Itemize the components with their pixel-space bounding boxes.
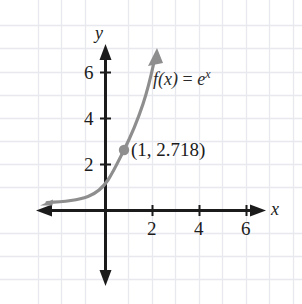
exponential-function-graph: y x 6 4 2 2 4 6 f(x) = ex (1, 2.718) [0,0,302,304]
y-axis-label: y [95,24,103,42]
x-axis [36,205,266,217]
x-tick-label-2: 2 [147,219,157,238]
equals-sign: = [178,69,197,89]
y-tick-label-4: 4 [84,109,94,128]
y-tick-label-6: 6 [84,63,94,82]
y-tick-label-2: 2 [84,155,94,174]
function-equation-label: f(x) = ex [153,68,210,88]
function-notation: f(x) [153,69,178,89]
euler-base: e [197,69,205,89]
exponent-x: x [205,67,210,81]
data-point-marker [119,145,129,155]
x-tick-label-6: 6 [241,219,251,238]
x-tick-label-4: 4 [194,219,204,238]
point-coordinate-label: (1, 2.718) [131,140,205,159]
x-axis-label: x [271,200,279,218]
